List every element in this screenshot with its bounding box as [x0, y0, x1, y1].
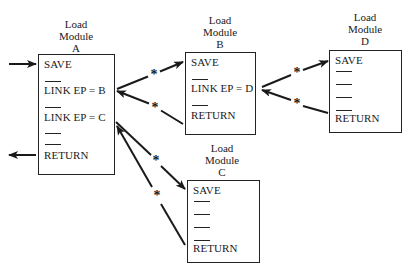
label-line: C — [182, 166, 262, 178]
label-line: Load — [182, 142, 262, 154]
arrow-c-to-a — [161, 204, 185, 245]
module-b-label: Load Module B — [180, 14, 260, 50]
ellipsis-line — [45, 144, 61, 145]
arrow-b-to-a — [161, 111, 183, 125]
module-d-label: Load Module D — [325, 11, 405, 47]
label-line: Module — [182, 154, 262, 166]
label-line: B — [180, 38, 260, 50]
save-statement: SAVE — [191, 56, 219, 68]
module-a-box: SAVE LINK EP = B LINK EP = C RETURN — [38, 54, 115, 175]
save-statement: SAVE — [193, 184, 221, 196]
link-statement: LINK EP = B — [44, 84, 106, 96]
save-statement: SAVE — [44, 58, 72, 70]
arrow-a-to-c — [116, 122, 151, 155]
module-d-box: SAVE RETURN — [329, 50, 402, 133]
edge-marker: * — [154, 188, 161, 203]
return-statement: RETURN — [193, 242, 238, 254]
ellipsis-line — [336, 71, 352, 72]
label-line: Module — [36, 30, 116, 42]
module-c-label: Load Module C — [182, 142, 262, 178]
label-line: D — [325, 35, 405, 47]
arrow-a-to-b — [117, 77, 148, 90]
ellipsis-line — [45, 133, 61, 134]
edge-marker: * — [294, 96, 301, 111]
edge-marker: * — [151, 67, 158, 82]
label-line: Load — [36, 18, 116, 30]
ellipsis-line — [45, 81, 61, 82]
ellipsis-line — [194, 240, 210, 241]
return-statement: RETURN — [191, 109, 236, 121]
arrow-b-to-d — [262, 75, 291, 87]
label-line: Module — [325, 23, 405, 35]
ellipsis-line — [192, 105, 208, 106]
ellipsis-line — [45, 107, 61, 108]
ellipsis-line — [194, 227, 210, 228]
save-statement: SAVE — [335, 54, 363, 66]
ellipsis-line — [194, 214, 210, 215]
ellipsis-line — [336, 110, 352, 111]
ellipsis-line — [336, 97, 352, 98]
arrow-d-to-b — [303, 106, 328, 113]
module-b-box: SAVE LINK EP = D RETURN — [185, 52, 256, 135]
label-line: A — [36, 42, 116, 54]
edge-marker: * — [153, 153, 160, 168]
ellipsis-line — [194, 201, 210, 202]
label-line: Module — [180, 26, 260, 38]
label-line: Load — [325, 11, 405, 23]
edge-marker: * — [152, 100, 159, 115]
module-a-label: Load Module A — [36, 18, 116, 54]
return-statement: RETURN — [44, 149, 89, 161]
link-statement: LINK EP = D — [191, 82, 253, 94]
link-statement: LINK EP = C — [44, 111, 106, 123]
edge-marker: * — [294, 65, 301, 80]
ellipsis-line — [336, 84, 352, 85]
ellipsis-line — [192, 79, 208, 80]
label-line: Load — [180, 14, 260, 26]
return-statement: RETURN — [335, 112, 380, 124]
module-c-box: SAVE RETURN — [187, 180, 260, 263]
